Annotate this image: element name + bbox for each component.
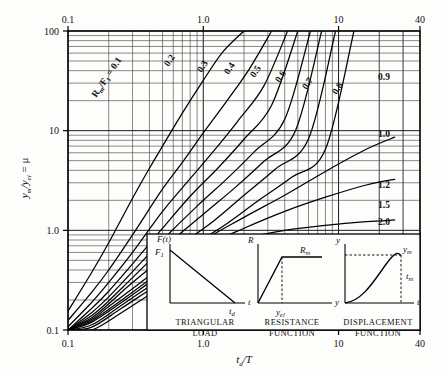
inset-symbol-R: R: [247, 235, 254, 245]
chart-figure: Rm/F1 = 0.10.20.30.40.50.60.70.80.91.01.…: [0, 0, 447, 377]
x-tick-label: 0.1: [62, 338, 75, 349]
inset-symbol-y: y: [335, 235, 340, 245]
curve-label-1.5: 1.5: [378, 200, 390, 210]
curve-label-1.0: 1.0: [378, 129, 390, 139]
y-tick-label: 0.1: [47, 325, 60, 336]
y-tick-label: 100: [44, 26, 59, 37]
inset2-caption-line1: RESISTANCE: [265, 317, 320, 327]
y-tick-label: 10: [49, 125, 59, 136]
curve-label-1.2: 1.2: [378, 180, 390, 190]
inset-symbol-y: y: [334, 297, 339, 307]
curve-label-2.0: 2.0: [378, 217, 390, 227]
x-tick-label: 1.0: [197, 338, 210, 349]
x-tick-label: 10: [334, 338, 344, 349]
x-tick-label-top: 40: [415, 14, 425, 25]
y-tick-label: 1.0: [47, 225, 60, 236]
curve-label-0.9: 0.9: [378, 72, 390, 82]
x-tick-label-top: 0.1: [62, 14, 75, 25]
x-tick-label-top: 1.0: [197, 14, 210, 25]
inset-symbol-F(t): F(t): [156, 234, 171, 244]
x-tick-label-top: 10: [334, 14, 344, 25]
x-tick-label: 40: [415, 338, 425, 349]
inset3-caption-line1: DISPLACEMENT: [343, 317, 413, 327]
inset3-caption-line2: FUNCTION: [355, 328, 401, 338]
inset1-caption-line2: LOAD: [192, 328, 217, 338]
chart-svg: Rm/F1 = 0.10.20.30.40.50.60.70.80.91.01.…: [0, 0, 447, 377]
inset1-caption-line1: TRIANGULAR: [175, 317, 234, 327]
inset2-caption-line2: FUNCTION: [269, 328, 315, 338]
